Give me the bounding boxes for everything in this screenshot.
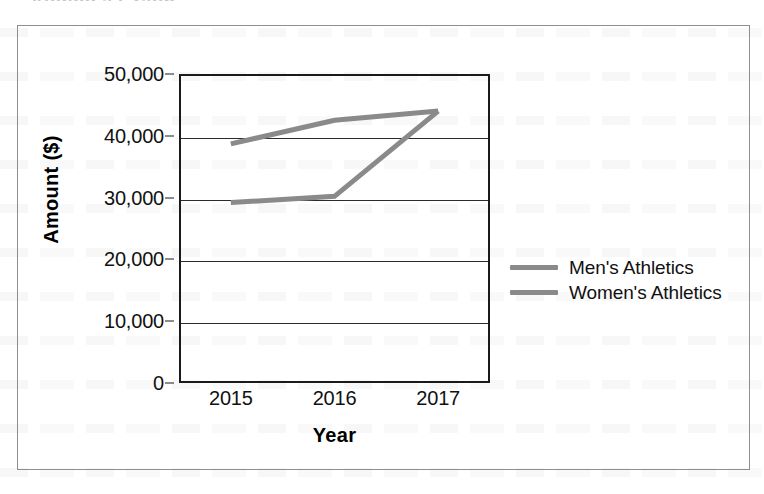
legend-line-swatch-icon (510, 265, 558, 270)
y-tick-label: 20,000 (104, 248, 164, 271)
y-tick-mark (165, 197, 174, 198)
x-tick-label: 2015 (209, 387, 253, 410)
x-axis: 201520162017 (179, 387, 490, 417)
series-line (231, 111, 438, 202)
legend-item[interactable]: Women's Athletics (510, 280, 740, 305)
legend-line-swatch-icon (510, 290, 558, 295)
x-axis-title: Year (179, 424, 490, 447)
y-axis-title: Amount ($) (40, 95, 63, 285)
y-tick-label: 50,000 (104, 63, 164, 86)
y-tick-mark (165, 383, 174, 384)
x-tick-label: 2016 (313, 387, 357, 410)
series-layer (179, 74, 490, 383)
y-tick-mark (165, 259, 174, 260)
legend-label: Women's Athletics (569, 282, 722, 304)
x-tick-label: 2017 (416, 387, 460, 410)
line-chart: 010,00020,00030,00040,00050,000 Amount (… (18, 26, 749, 469)
legend-label: Men's Athletics (569, 257, 694, 279)
figure-frame: 010,00020,00030,00040,00050,000 Amount (… (17, 25, 750, 470)
legend-item[interactable]: Men's Athletics (510, 255, 740, 280)
y-tick-label: 10,000 (104, 310, 164, 333)
y-axis: 010,00020,00030,00040,00050,000 (62, 74, 174, 383)
y-tick-mark (165, 321, 174, 322)
y-tick-label: 40,000 (104, 124, 164, 147)
y-tick-mark (165, 135, 174, 136)
y-tick-label: 0 (153, 372, 164, 395)
clipped-page-heading: Adding a Graph (30, 0, 175, 13)
y-tick-mark (165, 74, 174, 75)
chart-legend: Men's AthleticsWomen's Athletics (510, 255, 740, 305)
y-tick-label: 30,000 (104, 186, 164, 209)
